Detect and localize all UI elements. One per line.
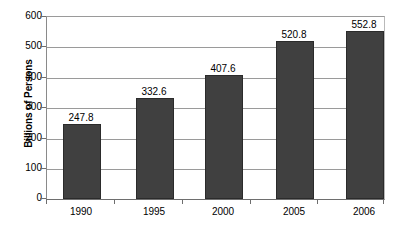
x-tick-mark-0 <box>46 199 47 204</box>
x-tick-label-1990: 1990 <box>53 206 109 217</box>
x-tick-mark-4 <box>317 199 318 204</box>
bar-1990 <box>63 124 101 199</box>
bar-2006 <box>346 31 384 199</box>
x-tick-mark-5 <box>383 199 384 204</box>
bar-value-2005: 520.8 <box>266 29 322 40</box>
y-tick-label-200: 200 <box>6 132 42 143</box>
y-tick-label-500: 500 <box>6 40 42 51</box>
x-tick-mark-2 <box>182 199 183 204</box>
y-tick-label-400: 400 <box>6 71 42 82</box>
y-tick-label-300: 300 <box>6 101 42 112</box>
x-tick-label-2006: 2006 <box>336 206 392 217</box>
gridline-500 <box>47 47 384 48</box>
x-tick-label-2005: 2005 <box>266 206 322 217</box>
x-tick-mark-1 <box>114 199 115 204</box>
bar-2000 <box>205 75 243 199</box>
bar-value-1995: 332.6 <box>126 86 182 97</box>
x-tick-label-2000: 2000 <box>195 206 251 217</box>
bar-2005 <box>276 41 314 199</box>
x-tick-label-1995: 1995 <box>126 206 182 217</box>
bar-value-1990: 247.8 <box>53 112 109 123</box>
plot-area <box>46 16 385 200</box>
bar-chart: Billions of Persons 600 500 400 300 200 … <box>0 0 404 228</box>
bar-value-2000: 407.6 <box>195 63 251 74</box>
y-tick-label-100: 100 <box>6 162 42 173</box>
y-tick-label-0: 0 <box>6 192 42 203</box>
bar-value-2006: 552.8 <box>336 19 392 30</box>
x-tick-mark-3 <box>250 199 251 204</box>
bar-1995 <box>136 98 174 199</box>
y-tick-label-600: 600 <box>6 10 42 21</box>
